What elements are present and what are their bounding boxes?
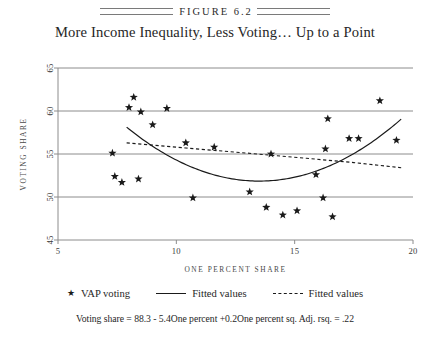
svg-text:45: 45 — [45, 235, 55, 244]
svg-text:20: 20 — [408, 246, 417, 256]
x-axis-label: ONE PERCENT SHARE — [184, 265, 286, 274]
figure-container: FIGURE 6.2 More Income Inequality, Less … — [0, 0, 430, 342]
legend-label-fitted-solid: Fitted values — [192, 288, 246, 299]
legend-item-vap-voting: ★ VAP voting — [67, 288, 130, 299]
svg-text:55: 55 — [45, 149, 55, 158]
y-axis-label: VOTING SHARE — [19, 117, 28, 190]
legend-label-vap-voting: VAP voting — [81, 288, 130, 299]
legend-item-fitted-solid: Fitted values — [156, 288, 246, 299]
svg-text:50: 50 — [45, 192, 55, 201]
svg-text:15: 15 — [290, 246, 299, 256]
legend-item-fitted-dashed: Fitted values — [273, 288, 363, 299]
solid-line-icon — [156, 293, 186, 294]
svg-text:65: 65 — [45, 63, 55, 72]
svg-text:10: 10 — [172, 246, 181, 256]
dashed-line-icon — [273, 293, 303, 294]
scatter-markers — [108, 93, 400, 220]
figure-caption: Voting share = 88.3 - 5.4One percent +0.… — [0, 313, 430, 324]
chart-legend: ★ VAP voting Fitted values Fitted values — [0, 288, 430, 299]
star-marker-icon: ★ — [67, 289, 75, 298]
x-axis-ticks: 5101520 — [56, 240, 418, 256]
y-axis-ticks: 4550556065 — [45, 63, 58, 244]
legend-label-fitted-dashed: Fitted values — [309, 288, 363, 299]
fitted-line-solid — [127, 119, 402, 181]
svg-text:5: 5 — [56, 246, 61, 256]
svg-text:60: 60 — [45, 106, 55, 115]
